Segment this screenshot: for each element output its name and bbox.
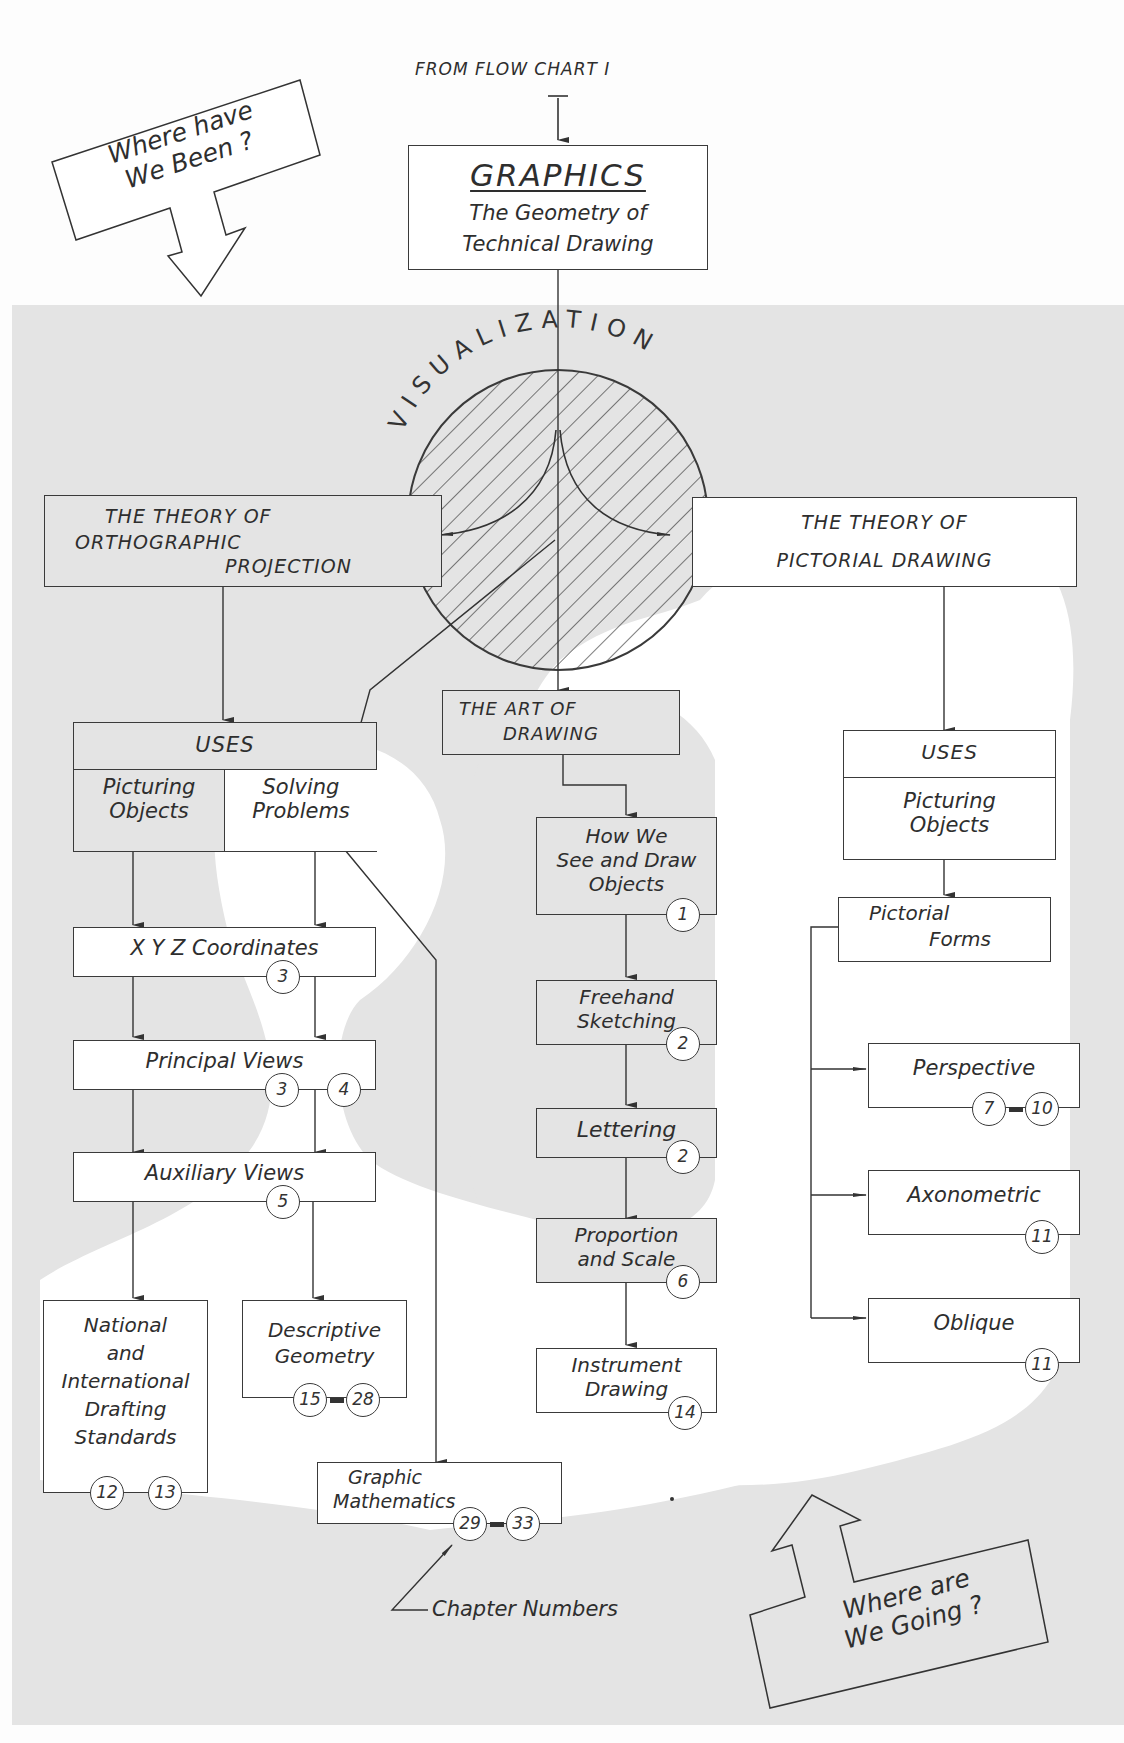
see-draw-line2: See and Draw: [537, 848, 716, 872]
chapter-badge: 28: [346, 1383, 380, 1417]
descriptive-geometry-box: Descriptive Geometry: [242, 1300, 407, 1398]
chapter-badge: 6: [666, 1265, 700, 1299]
see-draw-line1: How We: [537, 824, 716, 848]
descriptive-line1: Descriptive: [243, 1317, 406, 1343]
uses-picturing-objects: Picturing Objects: [74, 775, 224, 823]
chapter-badge: 33: [506, 1507, 540, 1541]
pictorial-uses-picturing: Picturing Objects: [844, 789, 1055, 837]
chapter-badge: 29: [453, 1507, 487, 1541]
uses-picturing-line1: Picturing: [74, 775, 224, 799]
proportion-label: Proportion and Scale: [537, 1223, 716, 1271]
math-line2: Mathematics: [333, 1491, 455, 1513]
graphics-box: GRAPHICS The Geometry of Technical Drawi…: [408, 145, 708, 270]
range-dash: [490, 1522, 504, 1527]
from-flow-chart-label: FROM FLOW CHART I: [415, 60, 715, 80]
pictorial-forms-box: Pictorial Forms: [838, 897, 1051, 962]
pictorial-uses-line2: Objects: [844, 813, 1055, 837]
pictorial-theory-line2: PICTORIAL DRAWING: [693, 550, 1076, 572]
flow-chart-diagram: VISUALIZATION FROM FLOW CHART I Where ha…: [0, 0, 1124, 1743]
chapter-badge: 11: [1025, 1348, 1059, 1382]
graphics-subtitle-2: Technical Drawing: [409, 232, 707, 256]
range-dash: [330, 1398, 344, 1403]
standards-line2: and: [44, 1339, 207, 1367]
lettering-label: Lettering: [537, 1117, 716, 1142]
chapter-numbers-legend: Chapter Numbers: [432, 1597, 618, 1621]
freehand-label: Freehand Sketching: [537, 985, 716, 1033]
principal-views-label: Principal Views: [74, 1049, 375, 1073]
chapter-badge: 4: [327, 1073, 361, 1107]
uses-solving-line2: Problems: [226, 799, 376, 823]
graphics-title: GRAPHICS: [409, 158, 707, 194]
chapter-badge: 7: [972, 1092, 1006, 1126]
drafting-standards-label: National and International Drafting Stan…: [44, 1311, 207, 1451]
descriptive-geometry-label: Descriptive Geometry: [243, 1317, 406, 1369]
uses-picturing-line2: Objects: [74, 799, 224, 823]
orthographic-theory-line3: PROJECTION: [225, 556, 352, 578]
math-line1: Graphic: [348, 1467, 422, 1489]
standards-line5: Standards: [44, 1423, 207, 1451]
uses-solving-line1: Solving: [226, 775, 376, 799]
chapter-badge: 12: [90, 1476, 124, 1510]
chapter-badge: 2: [666, 1140, 700, 1174]
range-dash: [1009, 1107, 1023, 1112]
orthographic-theory-line1: THE THEORY OF: [105, 506, 272, 528]
drafting-standards-box: National and International Drafting Stan…: [43, 1300, 208, 1493]
xyz-coordinates-label: X Y Z Coordinates: [74, 936, 375, 960]
proportion-line1: Proportion: [537, 1223, 716, 1247]
chapter-badge: 15: [293, 1383, 327, 1417]
orthographic-theory-line2: ORTHOGRAPHIC: [75, 532, 242, 554]
orthographic-theory-box: THE THEORY OF ORTHOGRAPHIC PROJECTION: [44, 495, 442, 587]
see-draw-line3: Objects: [537, 872, 716, 896]
chapter-badge: 1: [666, 898, 700, 932]
pictorial-theory-box: THE THEORY OF PICTORIAL DRAWING: [692, 497, 1077, 587]
art-title-line2: DRAWING: [503, 724, 599, 745]
pictorial-uses-box: USES Picturing Objects: [843, 730, 1056, 860]
pictorial-theory-line1: THE THEORY OF: [693, 512, 1076, 534]
art-title-line1: THE ART OF: [459, 699, 577, 720]
art-of-drawing-box: THE ART OF DRAWING: [442, 690, 680, 755]
uses-solving-problems: Solving Problems: [226, 775, 376, 823]
orthographic-uses-box: USES Picturing Objects Solving Problems: [73, 722, 377, 852]
perspective-label: Perspective: [869, 1056, 1079, 1080]
chapter-badge: 2: [666, 1027, 700, 1061]
chapter-badge: 10: [1025, 1092, 1059, 1126]
chapter-badge: 13: [148, 1476, 182, 1510]
auxiliary-views-label: Auxiliary Views: [74, 1161, 375, 1185]
orthographic-uses-header: USES: [74, 733, 376, 757]
pictorial-uses-header: USES: [844, 741, 1055, 764]
pictorial-forms-line2: Forms: [929, 928, 991, 951]
pictorial-uses-line1: Picturing: [844, 789, 1055, 813]
standards-line3: International: [44, 1367, 207, 1395]
see-and-draw-label: How We See and Draw Objects: [537, 824, 716, 896]
chapter-badge: 11: [1025, 1220, 1059, 1254]
axonometric-label: Axonometric: [869, 1183, 1079, 1207]
standards-line4: Drafting: [44, 1395, 207, 1423]
chapter-badge: 14: [668, 1396, 702, 1430]
xyz-coordinates-box: X Y Z Coordinates: [73, 927, 376, 977]
chapter-badge: 3: [266, 960, 300, 994]
auxiliary-views-box: Auxiliary Views: [73, 1152, 376, 1202]
instrument-line1: Instrument: [537, 1353, 716, 1377]
chapter-badge: 3: [265, 1073, 299, 1107]
standards-line1: National: [44, 1311, 207, 1339]
instrument-label: Instrument Drawing: [537, 1353, 716, 1401]
oblique-label: Oblique: [869, 1311, 1079, 1335]
freehand-line1: Freehand: [537, 985, 716, 1009]
graphics-subtitle-1: The Geometry of: [409, 201, 707, 225]
pictorial-forms-line1: Pictorial: [869, 902, 949, 925]
chapter-badge: 5: [266, 1185, 300, 1219]
descriptive-line2: Geometry: [243, 1343, 406, 1369]
